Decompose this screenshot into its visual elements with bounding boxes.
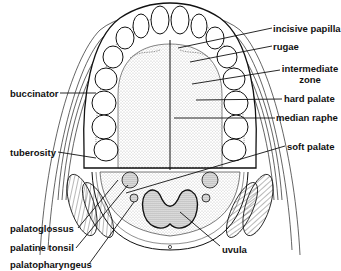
label-uvula: uvula (222, 244, 247, 255)
soft-palate-region (100, 172, 240, 236)
label-intermediate-zone: intermediate zone (280, 63, 340, 85)
label-buccinator: buccinator (10, 88, 59, 99)
label-soft-palate: soft palate (287, 141, 335, 152)
label-palatine-tonsil: palatine tonsil (10, 242, 74, 253)
label-rugae: rugae (273, 41, 299, 52)
label-tuberosity: tuberosity (10, 147, 56, 158)
label-median-raphe: median raphe (276, 112, 338, 123)
label-hard-palate: hard palate (284, 93, 335, 104)
label-incisive-papilla: incisive papilla (273, 23, 341, 34)
label-intermediate-zone-line1: intermediate (280, 63, 340, 74)
label-palatoglossus: palatoglossus (10, 223, 74, 234)
label-palatopharyngeus: palatopharyngeus (10, 259, 92, 270)
label-intermediate-zone-line2: zone (280, 74, 340, 85)
